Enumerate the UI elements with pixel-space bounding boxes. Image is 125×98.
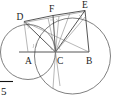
segment-DB xyxy=(24,22,89,53)
angle-mark-at-F-1 xyxy=(50,20,55,21)
radical-annotation: 5 xyxy=(0,82,13,98)
segment-C-ray-1 xyxy=(56,13,71,52)
radicand-value: 5 xyxy=(1,85,7,97)
circles-group xyxy=(1,18,111,94)
vertex-label-E: E xyxy=(82,0,88,10)
segment-C-ray-2 xyxy=(56,16,87,52)
segment-FE xyxy=(53,11,85,16)
vertex-label-F: F xyxy=(49,4,54,14)
segment-C-ray-down xyxy=(53,52,56,88)
vertex-label-A: A xyxy=(25,56,32,66)
vertex-label-D: D xyxy=(17,12,24,22)
geometry-canvas: A B C D E F 5 xyxy=(0,0,125,97)
segments-group xyxy=(19,11,89,89)
vertex-label-B: B xyxy=(86,56,92,66)
vertex-label-C: C xyxy=(57,56,63,66)
angle-mark-at-A-1 xyxy=(33,44,34,48)
geometry-figure: A B C D E F 5 xyxy=(0,0,125,97)
circle-centered-at-B xyxy=(35,18,111,94)
segment-CE xyxy=(56,11,86,53)
segment-AD xyxy=(24,22,28,53)
